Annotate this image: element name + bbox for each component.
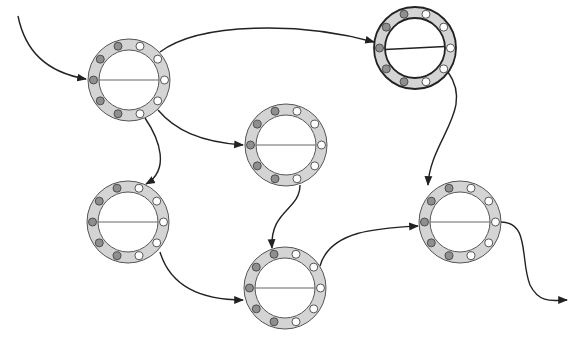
nodes-layer	[87, 7, 501, 329]
edge-2-6	[428, 72, 457, 185]
slot-dot-empty	[447, 44, 455, 52]
slot-dot-filled	[253, 120, 261, 128]
slot-dot-filled	[270, 250, 278, 258]
slot-dot-empty	[135, 252, 143, 260]
edge-1-2	[160, 28, 374, 52]
slot-dot-filled	[382, 23, 390, 31]
node-6	[419, 181, 501, 263]
slot-dot-filled	[382, 65, 390, 73]
slot-dot-filled	[96, 97, 104, 105]
node-2	[374, 7, 456, 89]
slot-dot-filled	[113, 184, 121, 192]
slot-dot-empty	[292, 250, 300, 258]
slot-dot-empty	[154, 55, 162, 63]
slot-dot-filled	[445, 184, 453, 192]
slot-dot-filled	[376, 44, 384, 52]
slot-dot-empty	[310, 263, 318, 271]
node-4	[87, 181, 169, 263]
edge-5-6	[320, 226, 418, 266]
slot-dot-filled	[90, 76, 98, 84]
slot-dot-filled	[95, 197, 103, 205]
slot-dot-empty	[161, 76, 169, 84]
slot-dot-filled	[252, 305, 260, 313]
node-3	[245, 104, 327, 186]
slot-dot-empty	[293, 175, 301, 183]
slot-dot-filled	[96, 55, 104, 63]
node-1	[88, 39, 170, 121]
slot-dot-filled	[114, 42, 122, 50]
slot-dot-empty	[311, 162, 319, 170]
slot-dot-filled	[252, 263, 260, 271]
slot-dot-empty	[135, 184, 143, 192]
slot-dot-empty	[318, 141, 326, 149]
slot-dot-empty	[292, 318, 300, 326]
slot-dot-filled	[253, 162, 261, 170]
edge-4-5	[160, 252, 243, 300]
slot-dot-filled	[427, 239, 435, 247]
edge-input	[18, 16, 86, 79]
slot-dot-empty	[136, 42, 144, 50]
slot-dot-empty	[467, 184, 475, 192]
slot-dot-empty	[467, 252, 475, 260]
slot-dot-empty	[485, 197, 493, 205]
edge-output	[501, 222, 567, 301]
slot-dot-empty	[153, 197, 161, 205]
slot-dot-empty	[317, 284, 325, 292]
edge-1-4	[145, 118, 160, 184]
slot-dot-empty	[440, 65, 448, 73]
slot-dot-filled	[400, 10, 408, 18]
slot-dot-filled	[271, 175, 279, 183]
slot-dot-filled	[421, 218, 429, 226]
slot-dot-filled	[247, 141, 255, 149]
slot-dot-filled	[270, 318, 278, 326]
slot-dot-empty	[311, 120, 319, 128]
slot-dot-empty	[492, 218, 500, 226]
slot-dot-empty	[153, 239, 161, 247]
edge-3-5	[272, 185, 300, 248]
slot-dot-empty	[310, 305, 318, 313]
slot-dot-empty	[293, 107, 301, 115]
slot-dot-filled	[95, 239, 103, 247]
slot-dot-filled	[445, 252, 453, 260]
slot-dot-empty	[160, 218, 168, 226]
slot-dot-filled	[89, 218, 97, 226]
slot-dot-filled	[427, 197, 435, 205]
slot-dot-filled	[400, 78, 408, 86]
slot-dot-filled	[113, 252, 121, 260]
slot-dot-empty	[154, 97, 162, 105]
node-5	[244, 247, 326, 329]
slot-dot-empty	[440, 23, 448, 31]
edge-1-3	[158, 110, 243, 145]
slot-dot-filled	[246, 284, 254, 292]
slot-dot-empty	[422, 78, 430, 86]
slot-dot-filled	[114, 110, 122, 118]
slot-dot-empty	[136, 110, 144, 118]
diagram-svg	[0, 0, 584, 347]
slot-dot-empty	[422, 10, 430, 18]
slot-dot-filled	[271, 107, 279, 115]
network-diagram	[0, 0, 584, 347]
slot-dot-empty	[485, 239, 493, 247]
